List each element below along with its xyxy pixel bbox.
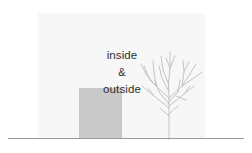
- caption-line-outside: outside: [88, 81, 156, 98]
- ground-line: [8, 138, 244, 139]
- illustration-canvas: inside & outside: [0, 0, 252, 153]
- caption-line-inside: inside: [88, 47, 156, 64]
- caption-text: inside & outside: [88, 47, 156, 98]
- caption-line-ampersand: &: [88, 64, 156, 81]
